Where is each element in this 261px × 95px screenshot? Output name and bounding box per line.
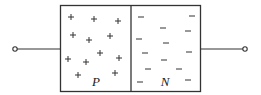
n-region-label: N [160,74,171,89]
pn-junction-diagram: P N [0,0,261,95]
right-terminal-icon [243,47,247,51]
left-terminal-icon [13,47,17,51]
p-region-label: P [91,74,100,89]
